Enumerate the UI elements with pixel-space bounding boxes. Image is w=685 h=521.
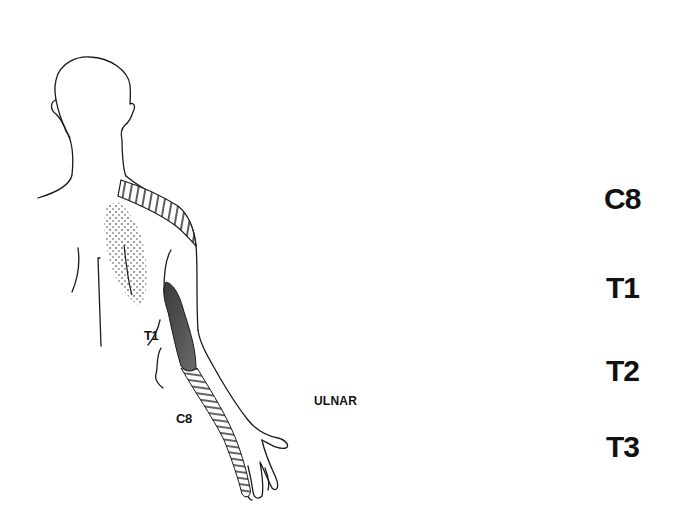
arm-outer [198, 330, 288, 448]
t1-dermatome-dark-region [164, 282, 196, 371]
t1-lead-line [156, 348, 163, 388]
torso-spine [98, 258, 101, 346]
head-outline [55, 57, 134, 176]
label-root-t3: T3 [606, 432, 639, 462]
label-ulnar: ULNAR [314, 395, 357, 407]
neck-left [38, 131, 73, 198]
label-root-c8: C8 [604, 184, 640, 214]
label-c8-left: C8 [176, 412, 192, 425]
hand-finger-2 [265, 468, 269, 490]
torso-left [72, 248, 79, 292]
label-t1-left: T1 [144, 329, 158, 342]
label-root-t2: T2 [606, 356, 639, 386]
hand [248, 440, 278, 498]
left-figure [38, 57, 288, 500]
label-root-t1: T1 [606, 273, 639, 303]
c8-dermatome-striped-region [181, 368, 250, 497]
anatomical-diagram [0, 0, 685, 521]
head-left-ear [52, 100, 67, 131]
